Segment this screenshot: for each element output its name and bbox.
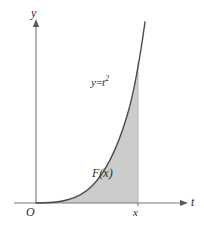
area-function-label: F(x): [92, 167, 113, 179]
origin-label: O: [26, 206, 35, 218]
curve-equation-exponent: 2: [105, 74, 109, 83]
figure-canvas: [0, 0, 204, 232]
y-axis-arrowhead-icon: [33, 19, 39, 27]
y-axis-label: y: [31, 7, 36, 19]
figure-area-under-parabola: y t O x y=t2 F(x): [0, 0, 204, 232]
shaded-area-region: [36, 62, 138, 203]
x-tick-label: x: [133, 207, 138, 218]
t-axis-label: t: [191, 196, 194, 208]
curve-equation-label: y=t2: [91, 77, 109, 88]
t-axis-arrowhead-icon: [180, 200, 188, 206]
